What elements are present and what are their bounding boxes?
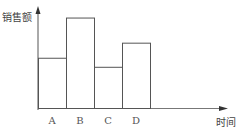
x-axis-label: 时间 xyxy=(216,116,236,128)
bar-b xyxy=(67,18,95,108)
x-tick-c: C xyxy=(104,115,112,126)
x-tick-b: B xyxy=(76,115,83,126)
y-axis-label: 销售额 xyxy=(2,11,32,23)
bar-chart: ABCD 销售额 时间 xyxy=(0,0,246,132)
y-axis-arrow-icon xyxy=(36,6,41,14)
x-tick-a: A xyxy=(47,115,56,126)
bar-a xyxy=(39,58,67,108)
bars-group xyxy=(39,18,151,108)
x-tick-d: D xyxy=(132,115,140,126)
bar-d xyxy=(123,43,151,108)
x-axis-arrow-icon xyxy=(219,106,228,111)
x-tick-labels: ABCD xyxy=(47,115,140,126)
bar-c xyxy=(95,67,123,108)
